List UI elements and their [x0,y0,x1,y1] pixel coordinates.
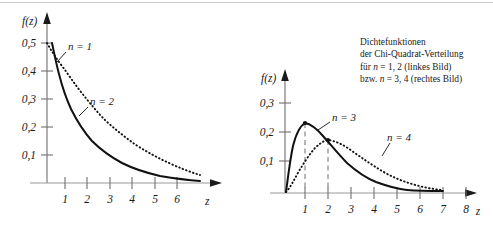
left-chart-series-label-n1: n = 1 [68,40,92,52]
chi-square-density-figure: 0,5 0,4 0,3 0,2 0,1 1 2 3 4 5 6 f(z) z n… [0,0,493,228]
right-chart-annotation-n4: n = 4 [382,131,411,156]
left-chart-series-label-n2: n = 2 [90,95,114,107]
right-chart-x-axis-label: z [475,205,481,217]
right-chart-xtick-label-0: 1 [302,203,308,215]
left-chart-annotation-n2: n = 2 [79,95,114,116]
right-chart-ytick-label-2: 0,1 [260,155,274,168]
caption-line-4: bzw. n = 3, 4 (rechtes Bild) [360,73,493,85]
left-chart-xtick-label-5: 6 [174,193,180,205]
right-chart-xtick-label-1: 2 [325,203,331,215]
right-chart-curve-n3 [286,123,443,192]
right-chart-xtick-label-2: 3 [347,203,354,215]
figure-caption: Dichtefunktionen der Chi-Quadrat-Verteil… [360,36,493,86]
left-chart-xtick-label-1: 2 [84,193,90,205]
left-chart-x-axis-label: z [204,195,210,207]
left-chart-ytick-label-1: 0,4 [22,65,37,78]
right-chart-peak-marker-n3 [303,121,307,125]
right-chart-ytick-label-0: 0,3 [260,97,275,110]
right-chart: 0,3 0,2 0,1 1 2 3 4 5 6 7 8 f(z) z [260,69,481,217]
right-chart-xtick-label-4: 5 [394,203,400,215]
right-chart-xtick-label-5: 6 [417,203,423,215]
caption-line-4-variable: n [380,74,385,84]
left-chart-xtick-label-4: 5 [152,193,158,205]
right-chart-y-axis-label: f(z) [261,72,277,85]
right-chart-annotation-n3: n = 3 [318,111,356,130]
left-chart-annotation-n1: n = 1 [57,40,92,62]
left-chart-ytick-label-2: 0,3 [22,93,37,106]
figure-canvas: 0,5 0,4 0,3 0,2 0,1 1 2 3 4 5 6 f(z) z n… [0,0,493,228]
caption-line-1: Dichtefunktionen [360,36,493,48]
caption-line-4-suffix: = 3, 4 (rechtes Bild) [387,74,462,84]
left-chart-xtick-label-0: 1 [62,193,68,205]
caption-line-3-suffix: = 1, 2 (linkes Bild) [380,62,451,72]
caption-line-3-variable: n [373,62,378,72]
caption-line-4-prefix: bzw. [360,74,377,84]
caption-line-3: für n = 1, 2 (linkes Bild) [360,61,493,73]
left-chart-xtick-label-2: 3 [106,193,113,205]
caption-line-2: der Chi-Quadrat-Verteilung [360,48,493,60]
right-chart-peak-marker-n4 [326,138,330,142]
right-chart-series-label-n4: n = 4 [387,131,411,143]
right-chart-xtick-label-7: 8 [463,203,469,215]
right-chart-curve-n4 [286,140,442,192]
left-chart-ytick-label-3: 0,2 [22,121,37,134]
left-chart-ytick-label-0: 0,5 [22,37,37,50]
left-chart: 0,5 0,4 0,3 0,2 0,1 1 2 3 4 5 6 f(z) z n… [22,12,222,207]
left-chart-ytick-label-4: 0,1 [22,149,36,162]
left-chart-curve-n1 [52,43,200,181]
caption-line-3-prefix: für [360,62,371,72]
right-chart-xtick-label-6: 7 [440,203,447,215]
left-chart-xtick-label-3: 4 [129,193,135,205]
left-chart-y-axis-label: f(z) [22,15,38,28]
right-chart-xtick-label-3: 4 [371,203,377,215]
right-chart-ytick-label-1: 0,2 [260,126,275,139]
left-chart-y-axis [43,12,51,183]
right-chart-series-label-n3: n = 3 [332,111,356,123]
